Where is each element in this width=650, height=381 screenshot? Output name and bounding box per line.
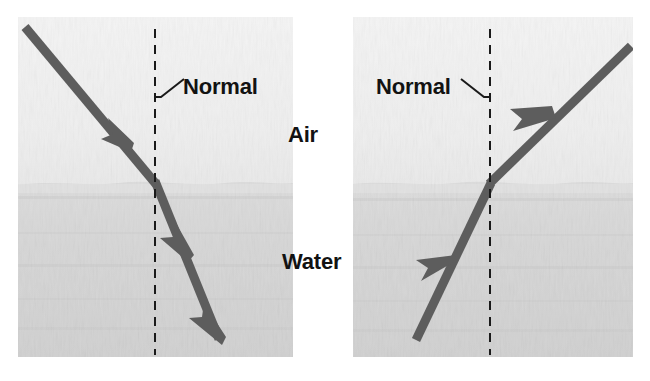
right-panel-air-region bbox=[353, 17, 633, 185]
refraction-diagram: Air Water Normal Normal bbox=[0, 0, 650, 381]
water-label: Water bbox=[282, 249, 341, 275]
diagram-canvas bbox=[0, 0, 650, 381]
normal-label-left: Normal bbox=[183, 74, 258, 100]
air-label: Air bbox=[288, 122, 318, 148]
left-panel bbox=[18, 17, 293, 357]
right-panel bbox=[353, 17, 633, 357]
normal-label-right: Normal bbox=[376, 74, 451, 100]
